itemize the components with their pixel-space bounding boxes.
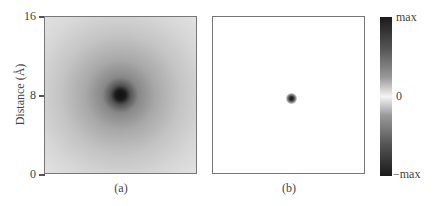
caption-a: (a) bbox=[101, 181, 141, 196]
heatmap-panel-a bbox=[44, 16, 197, 174]
y-tick-label-0: 0 bbox=[16, 167, 36, 182]
caption-b: (b) bbox=[269, 181, 309, 196]
y-tick-0 bbox=[39, 174, 45, 176]
heatmap-panel-b bbox=[212, 16, 365, 174]
colorbar-label-neg-max: −max bbox=[393, 167, 420, 182]
y-tick-label-8: 8 bbox=[16, 88, 36, 103]
colorbar bbox=[380, 17, 392, 176]
colorbar-label-zero: 0 bbox=[396, 89, 402, 104]
point-source-spot bbox=[286, 93, 297, 104]
colorbar-label-max: max bbox=[396, 10, 417, 25]
y-tick-label-16: 16 bbox=[16, 9, 36, 24]
